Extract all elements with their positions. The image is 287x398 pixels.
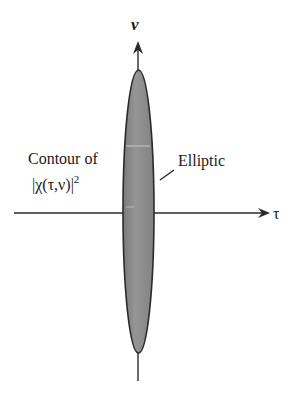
contour-exponent: 2	[74, 173, 80, 185]
elliptic-leader-line	[160, 170, 174, 180]
tau-axis-label: τ	[273, 205, 280, 222]
contour-label-line1: Contour of	[28, 150, 98, 167]
elliptic-contour	[123, 70, 154, 353]
nu-axis-label: ν	[131, 15, 139, 34]
contour-label-line2: |χ(τ,ν)|2	[32, 173, 79, 194]
ambiguity-diagram: ν τ Contour of |χ(τ,ν)|2 Elliptic	[0, 0, 287, 398]
elliptic-label: Elliptic	[178, 152, 225, 170]
